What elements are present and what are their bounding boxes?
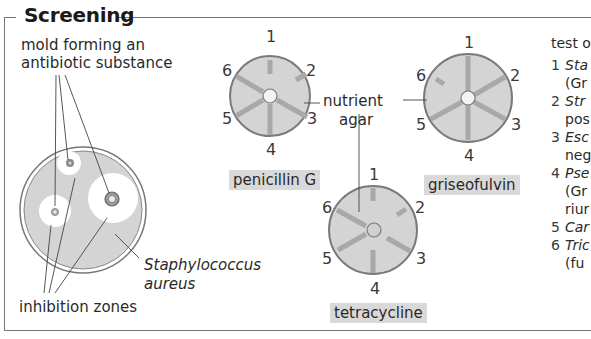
griseofulvin-num-1: 1 [464,33,474,52]
penicillin-num-3: 3 [307,109,317,128]
griseofulvin-num-3: 3 [511,115,521,134]
bacteria-label-line2: aureus [144,275,195,294]
tetracycline-num-6: 6 [322,198,332,217]
legend-item-4-line1: Pse [565,164,589,182]
legend-item-4-line2: (Gr [565,182,587,200]
tetracycline-num-5: 5 [322,249,332,268]
griseofulvin-label: griseofulvin [424,175,520,195]
legend-item-5-line1: Car [565,218,589,236]
penicillin-label: penicillin G [229,170,320,190]
legend-item-6-line1: Tric [565,236,590,254]
legend-num-4: 4 [551,164,560,182]
griseofulvin-num-2: 2 [510,66,520,85]
mold-label-line2: antibiotic substance [21,54,172,73]
tetracycline-label: tetracycline [330,303,427,323]
disc-penicillin [230,56,310,136]
disc-tetracycline [329,186,417,274]
tetracycline-num-4: 4 [370,279,380,298]
penicillin-num-5: 5 [222,109,232,128]
penicillin-num-6: 6 [222,61,232,80]
tetracycline-num-2: 2 [415,198,425,217]
tetracycline-num-3: 3 [416,249,426,268]
penicillin-num-2: 2 [306,61,316,80]
legend-heading: test o [551,34,591,52]
legend-item-3-line1: Esc [565,128,589,146]
nutrient-label-line2: agar [339,111,373,130]
petri-dish [20,147,146,273]
bacteria-label-line1: Staphylococcus [144,256,261,275]
penicillin-num-4: 4 [266,140,276,159]
legend-num-5: 5 [551,218,560,236]
mold-label-line1: mold forming an [21,36,145,55]
disc-griseofulvin [424,54,512,142]
legend-num-2: 2 [551,92,560,110]
legend-num-1: 1 [551,56,560,74]
legend-item-2-line1: Str [565,92,585,110]
griseofulvin-num-5: 5 [416,115,426,134]
griseofulvin-num-4: 4 [464,146,474,165]
legend-num-6: 6 [551,236,560,254]
legend-num-3: 3 [551,128,560,146]
legend-item-1-line1: Sta [565,56,588,74]
legend-item-3-line2: neg [565,146,591,164]
nutrient-label-line1: nutrient [323,92,383,111]
inhibition-zones-label: inhibition zones [19,298,137,317]
penicillin-num-1: 1 [266,27,276,46]
legend-item-2-line2: pos [565,110,590,128]
griseofulvin-num-6: 6 [416,66,426,85]
tetracycline-num-1: 1 [369,165,379,184]
legend-item-6-line2: (fu [565,254,584,272]
legend-item-4-line3: riur [565,200,589,218]
legend-item-1-line2: (Gr [565,74,587,92]
